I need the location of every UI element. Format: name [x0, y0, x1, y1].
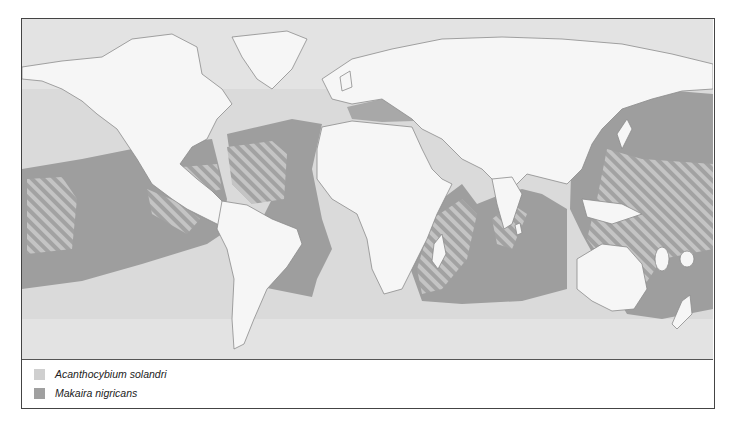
legend: Acanthocybium solandri Makaira nigricans: [22, 360, 713, 407]
map-figure-frame: Acanthocybium solandri Makaira nigricans: [21, 18, 715, 409]
legend-label: Makaira nigricans: [55, 387, 137, 399]
legend-label: Acanthocybium solandri: [55, 368, 166, 380]
legend-item-acanthocybium: Acanthocybium solandri: [34, 366, 166, 382]
map-canvas: [22, 19, 713, 359]
legend-swatch-dark: [34, 388, 45, 399]
legend-swatch-light: [34, 369, 45, 380]
world-distribution-map: [22, 19, 713, 360]
legend-item-makaira: Makaira nigricans: [34, 385, 137, 401]
